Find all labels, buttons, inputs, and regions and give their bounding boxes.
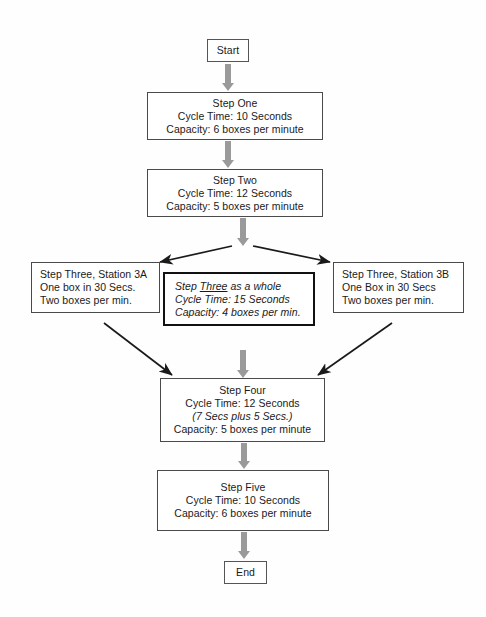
node-step-two[interactable]: Step Two Cycle Time: 12 Seconds Capacity… (147, 169, 323, 217)
node-step-five-title: Step Five (158, 481, 328, 494)
node-step-four[interactable]: Step Four Cycle Time: 12 Seconds (7 Secs… (160, 378, 325, 442)
arrow-step-five-to-end (238, 532, 250, 559)
node-three-whole-title-underlined: Three (200, 280, 228, 292)
node-3b-rate: One Box in 30 Secs (342, 281, 463, 294)
node-3b-title: Step Three, Station 3B (342, 268, 463, 281)
connector-step-two-to-3b (253, 246, 330, 262)
node-step-one-cycle-time: Cycle Time: 10 Seconds (148, 110, 322, 123)
node-step-one[interactable]: Step One Cycle Time: 10 Seconds Capacity… (147, 92, 323, 140)
arrow-step-three-to-step-four (237, 350, 249, 378)
node-end-label: End (225, 566, 266, 579)
node-end[interactable]: End (224, 561, 267, 584)
node-step-four-title: Step Four (161, 384, 324, 397)
node-step-four-capacity: Capacity: 5 boxes per minute (161, 423, 324, 436)
node-three-whole-capacity: Capacity: 4 boxes per min. (165, 306, 313, 319)
node-start[interactable]: Start (207, 39, 249, 62)
node-three-whole-cycle-time: Cycle Time: 15 Seconds (165, 293, 313, 306)
node-step-two-title: Step Two (148, 174, 322, 187)
arrow-start-to-step-one (222, 64, 234, 91)
node-three-whole-title: Step Three as a whole (165, 280, 313, 293)
node-step-five-capacity: Capacity: 6 boxes per minute (158, 507, 328, 520)
node-3a-capacity: Two boxes per min. (40, 294, 159, 307)
node-step-three-station-3a[interactable]: Step Three, Station 3A One box in 30 Sec… (31, 262, 160, 313)
node-step-two-capacity: Capacity: 5 boxes per minute (148, 200, 322, 213)
node-start-label: Start (208, 44, 248, 57)
node-step-four-breakdown: (7 Secs plus 5 Secs.) (161, 410, 324, 423)
node-step-three-as-a-whole[interactable]: Step Three as a whole Cycle Time: 15 Sec… (163, 272, 315, 326)
connector-3a-to-step-four (104, 323, 172, 375)
connector-step-two-to-3a (160, 246, 232, 262)
node-step-three-station-3b[interactable]: Step Three, Station 3B One Box in 30 Sec… (333, 262, 464, 313)
arrow-step-two-to-branch (237, 218, 249, 246)
node-three-whole-title-prefix: Step (175, 280, 200, 292)
node-three-whole-title-suffix: as a whole (227, 280, 281, 292)
flowchart-canvas: Start Step One Cycle Time: 10 Seconds Ca… (0, 0, 486, 617)
arrow-step-four-to-step-five (238, 443, 250, 469)
node-step-two-cycle-time: Cycle Time: 12 Seconds (148, 187, 322, 200)
node-step-one-title: Step One (148, 97, 322, 110)
node-step-five-cycle-time: Cycle Time: 10 Seconds (158, 494, 328, 507)
node-step-one-capacity: Capacity: 6 boxes per minute (148, 123, 322, 136)
node-3b-capacity: Two boxes per min. (342, 294, 463, 307)
arrow-step-one-to-step-two (222, 141, 234, 168)
node-3a-rate: One box in 30 Secs. (40, 281, 159, 294)
node-step-four-cycle-time: Cycle Time: 12 Seconds (161, 397, 324, 410)
connector-3b-to-step-four (318, 323, 392, 375)
node-3a-title: Step Three, Station 3A (40, 268, 159, 281)
node-step-five[interactable]: Step Five Cycle Time: 10 Seconds Capacit… (157, 470, 329, 531)
